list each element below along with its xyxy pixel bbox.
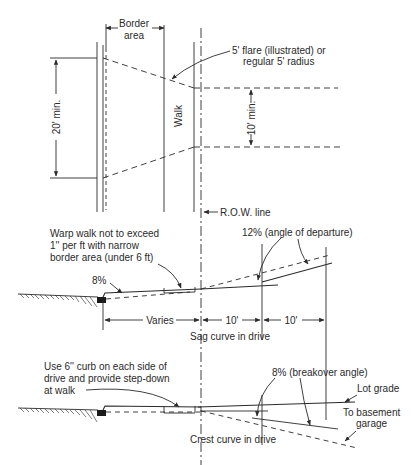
warp-note-1: Warp walk not to exceed: [50, 228, 159, 239]
basement-label-1: To basement: [343, 407, 400, 418]
dim-10-2-label: 10': [284, 315, 297, 326]
sag-drive-surface: [103, 289, 201, 297]
walk-label: Walk: [173, 104, 184, 127]
lot-grade-line: [198, 402, 355, 407]
crest-drive-seg2: [252, 418, 338, 429]
sag-drive-seg2: [262, 263, 332, 282]
crest-curb-block: [97, 410, 106, 416]
spacing-label: 10' min.: [246, 101, 257, 136]
breakover-label: 8% (breakover angle): [272, 367, 368, 378]
curb-note-1: Use 6'' curb on each side of: [44, 361, 167, 372]
curb-grade-leader: [110, 283, 122, 293]
lot-grade-leader: [345, 395, 357, 402]
warp-note-2: 1'' per ft with narrow: [50, 240, 140, 251]
border-area-label-1: Border: [119, 18, 150, 29]
driveway-width-label: 20' min.: [51, 100, 62, 135]
crest-caption: Crest curve in drive: [190, 434, 277, 445]
breakover-leader-1: [257, 378, 275, 416]
drive-edge-bottom-flare: [103, 147, 194, 178]
sag-caption: Sag curve in drive: [190, 331, 270, 342]
row-label: R.O.W. line: [220, 207, 271, 218]
curb-note-3: at walk: [44, 385, 76, 396]
basement-label-2: garage: [356, 418, 388, 429]
curb-note-leader: [86, 389, 179, 407]
departure-leader-2: [298, 239, 308, 264]
crest-ground-hatch: [20, 408, 97, 422]
warp-note-3: border area (under 6 ft): [50, 252, 153, 263]
driveway-design-diagram: Border area 20' min. Walk 5' flare (illu…: [0, 0, 420, 465]
basement-leader: [345, 431, 356, 441]
flare-label-1: 5' flare (illustrated) or: [232, 45, 326, 56]
crest-drive-surface: [103, 406, 201, 410]
curb-block: [97, 297, 106, 303]
dim-10-1-label: 10': [225, 315, 238, 326]
departure-dashed: [201, 255, 330, 289]
curb-note-2: drive and provide step-down: [44, 373, 170, 384]
lot-grade-label: Lot grade: [357, 383, 400, 394]
departure-label: 12% (angle of departure): [242, 227, 353, 238]
dim-varies-label: Varies: [146, 315, 174, 326]
flare-label-2: regular 5' radius: [243, 56, 314, 67]
breakover-leader-2: [300, 378, 310, 425]
crest-profile: Use 6'' curb on each side of drive and p…: [18, 361, 400, 448]
sag-drive-subgrade: [106, 292, 190, 299]
departure-leader-1: [258, 238, 281, 280]
warp-leader: [158, 264, 181, 288]
border-area-label-2: area: [124, 30, 144, 41]
ground-left: [18, 294, 98, 297]
curb-grade-label: 8%: [92, 275, 107, 286]
